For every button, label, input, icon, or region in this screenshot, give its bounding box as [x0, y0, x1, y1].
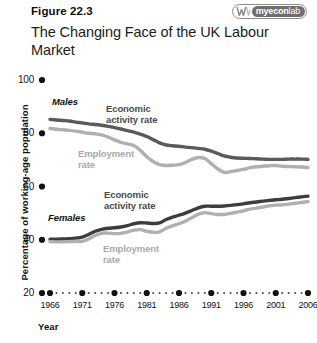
annotation-females: Females — [48, 212, 85, 223]
x-tick-label: 1976 — [99, 300, 131, 310]
x-tick-label: 1996 — [228, 300, 260, 310]
chart-plot-area — [0, 0, 317, 343]
chart-svg — [0, 0, 317, 343]
x-axis-title: Year — [38, 321, 58, 332]
x-tick-label: 1971 — [66, 300, 98, 310]
annotation-males-economic-activity-rate: Economic activity rate — [106, 103, 158, 125]
annotation-females-employment-rate: Employment rate — [103, 243, 159, 265]
chart-series-lines — [50, 119, 308, 242]
annotation-females-economic-activity-rate: Economic activity rate — [104, 189, 156, 211]
x-tick-label: 1986 — [163, 300, 195, 310]
x-tick-label: 2006 — [292, 300, 317, 310]
y-tick-label: 20 — [8, 287, 34, 298]
y-tick-label: 100 — [8, 74, 34, 85]
annotation-males: Males — [52, 96, 78, 107]
x-tick-label: 1991 — [195, 300, 227, 310]
y-tick-label: 40 — [8, 234, 34, 245]
x-tick-label: 1966 — [34, 300, 66, 310]
x-axis-dotted-line — [39, 290, 311, 296]
x-tick-label: 1981 — [131, 300, 163, 310]
y-tick-label: 80 — [8, 127, 34, 138]
y-tick-label: 60 — [8, 181, 34, 192]
y-axis-tick-markers — [39, 77, 45, 243]
annotation-males-employment-rate: Employment rate — [78, 148, 134, 170]
y-axis-title: Percentage of working-age population — [19, 98, 30, 288]
x-tick-label: 2001 — [260, 300, 292, 310]
figure-card: Figure 22.3 myeconlab The Changing Face … — [0, 0, 317, 343]
